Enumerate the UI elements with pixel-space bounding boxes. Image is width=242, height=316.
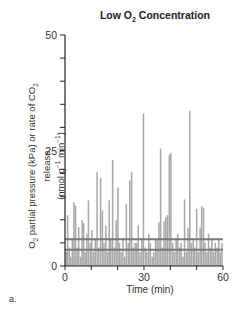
data-bar [126,204,128,266]
data-bar [156,240,158,266]
data-bar [141,238,143,266]
data-bar [175,238,177,266]
data-bar [218,238,220,266]
data-bar [115,220,117,266]
data-bar [158,222,160,266]
data-bar [72,238,74,266]
chart-title: Low O2 Concentration [80,9,230,23]
data-bar [85,252,87,266]
data-bar [160,149,162,266]
data-bar [172,243,174,266]
data-bar [220,252,222,266]
data-bar [108,200,110,266]
data-bar [88,200,90,266]
data-bar [134,243,136,266]
data-bar [189,111,191,266]
data-bar [107,252,109,266]
data-bar [90,243,92,266]
data-bar [96,172,98,266]
data-bar [165,217,167,266]
data-bar [103,243,105,266]
data-bar [127,243,129,266]
data-bar [100,178,102,266]
x-tick-label: 0 [62,271,68,283]
data-bar [105,225,107,266]
x-tick-label: 30 [138,271,150,283]
data-bar [191,243,193,266]
data-bar [163,221,165,266]
data-bar [91,230,93,266]
data-bar [197,252,199,266]
data-bar [110,238,112,266]
y-axis-label: O2 partial pressure (kPa) or rate of CO2… [26,76,66,256]
data-bar [80,257,82,266]
data-bar [143,114,145,266]
data-bar [153,252,155,266]
data-bar [184,199,186,266]
data-bar [117,187,119,266]
co2-release-series [66,111,223,266]
data-bar [131,172,133,266]
data-bar [75,205,77,266]
data-bar [146,252,148,266]
data-bar [136,243,138,266]
data-bar [137,225,139,266]
data-bar [124,257,126,266]
data-bar [150,243,152,266]
data-bar [93,252,95,266]
data-bar [211,238,213,266]
data-bar [129,181,131,266]
data-bar [206,252,208,266]
data-bar [70,257,72,266]
data-bar [120,252,122,266]
data-bar [182,257,184,266]
data-bar [192,238,194,266]
data-bar [151,257,153,266]
data-bar [139,252,141,266]
data-bar [67,215,69,266]
data-bar [119,243,121,266]
y-tick-label: 50 [45,29,57,41]
data-bar [215,243,217,266]
data-bar [78,227,80,266]
data-bar [186,252,188,266]
x-axis-label: Time (min) [110,284,190,295]
data-bar [213,252,215,266]
data-bar [95,238,97,266]
data-bar [83,223,85,266]
data-bar [155,238,157,266]
data-bar [201,206,203,266]
data-bar [122,238,124,266]
data-bar [203,208,205,266]
x-tick-label: 60 [217,271,229,283]
data-bar [174,252,176,266]
panel-label: a. [9,294,17,304]
data-bar [204,243,206,266]
data-bar [180,243,182,266]
data-bar [81,220,83,266]
data-bar [196,209,198,266]
data-bar [167,215,169,266]
data-bar [73,202,75,266]
data-bar [199,228,201,266]
data-bar [187,228,189,266]
y-tick-label: 0 [51,260,57,272]
data-bar [221,243,223,266]
